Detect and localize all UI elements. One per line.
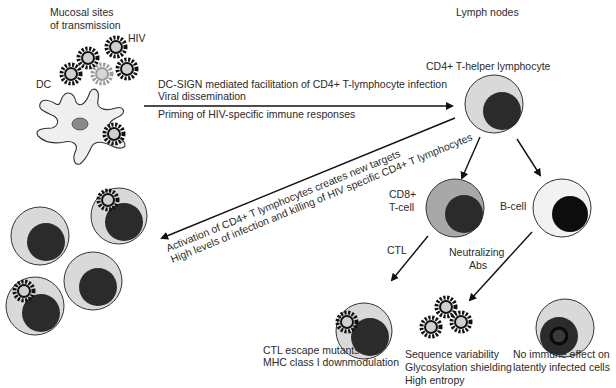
target-cell-infected xyxy=(6,277,64,335)
dc-sign-facilitation-text: DC-SIGN mediated facilitation of CD4+ T-… xyxy=(158,78,447,90)
mhc-downmodulation-text: MHC class I downmodulation xyxy=(263,356,399,368)
cd8-label-line2: T-cell xyxy=(389,201,414,213)
ctl-escape-mutants-text: CTL escape mutants xyxy=(263,344,360,356)
abs-label: Abs xyxy=(469,259,487,271)
priming-immune-responses-text: Priming of HIV-specific immune responses xyxy=(158,108,355,120)
cd4-helper-cell xyxy=(465,75,523,133)
cd8-label-line1: CD8+ xyxy=(389,188,416,200)
viral-dissemination-text: Viral dissemination xyxy=(158,90,246,102)
hiv-virion-icon xyxy=(107,38,126,57)
high-entropy-text: High entropy xyxy=(405,374,465,386)
ctl-arrow xyxy=(392,236,428,280)
bcell-label: B-cell xyxy=(500,200,526,212)
cd4-helper-label: CD4+ T-helper lymphocyte xyxy=(426,60,551,72)
no-immune-effect-text: No immune effect on xyxy=(513,348,610,360)
dc-label: DC xyxy=(36,78,52,90)
glycosylation-shielding-text: Glycosylation shielding xyxy=(405,361,512,373)
target-cell-infected xyxy=(91,188,147,244)
hiv-immune-response-diagram: Mucosal sites of transmission Lymph node… xyxy=(0,0,616,388)
dc-nucleus xyxy=(72,118,88,130)
mucosal-sites-title-line1: Mucosal sites xyxy=(50,6,114,18)
cd8-t-cell xyxy=(426,179,484,237)
target-cell xyxy=(11,207,69,265)
b-cell xyxy=(533,179,591,237)
hiv-label: HIV xyxy=(128,32,146,44)
lymph-nodes-title: Lymph nodes xyxy=(456,6,519,18)
sequence-variability-text: Sequence variability xyxy=(405,348,500,360)
latently-infected-cells-text: latently infected cells xyxy=(513,361,610,373)
activation-new-targets-text: Activation of CD4+ T lymphocytes creates… xyxy=(164,147,402,254)
mucosal-sites-title-line2: of transmission xyxy=(50,19,121,31)
hiv-virion-faded-icon xyxy=(93,65,112,84)
hiv-virion-icon xyxy=(62,65,81,84)
target-cell xyxy=(64,252,122,310)
free-hiv-virions xyxy=(422,298,471,337)
ctl-label: CTL xyxy=(387,244,407,256)
hiv-virion-icon xyxy=(118,60,137,79)
hiv-virion-icon xyxy=(79,49,98,68)
cd4-to-bcell-arrow xyxy=(517,139,540,175)
neutralizing-label: Neutralizing xyxy=(449,246,505,258)
cd4-to-new-targets-arrow xyxy=(162,118,455,238)
